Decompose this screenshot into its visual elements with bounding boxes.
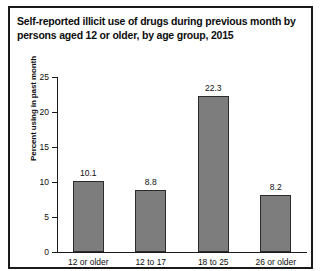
x-tick-label: 26 or older: [240, 258, 312, 267]
y-tick-label: 25: [24, 73, 49, 82]
x-tick-label: 18 to 25: [177, 258, 249, 267]
x-axis-line: [57, 252, 307, 253]
y-tick-mark: [52, 252, 57, 253]
y-tick-label: 10: [24, 178, 49, 187]
bar-value-label: 22.3: [193, 84, 233, 93]
bar: [73, 181, 104, 252]
y-axis-line: [57, 77, 58, 253]
y-tick-label: 15: [24, 143, 49, 152]
figure-frame: Self-reported illicit use of drugs durin…: [8, 6, 313, 269]
bar-value-label: 8.2: [256, 183, 296, 192]
y-tick-mark: [52, 112, 57, 113]
y-tick-mark: [52, 182, 57, 183]
bar: [135, 190, 166, 252]
bar: [260, 195, 291, 252]
y-tick-label: 5: [24, 213, 49, 222]
y-tick-mark: [52, 77, 57, 78]
bar-value-label: 10.1: [68, 169, 108, 178]
bar-value-label: 8.8: [131, 178, 171, 187]
y-tick-mark: [52, 147, 57, 148]
y-tick-label: 0: [24, 248, 49, 257]
y-tick-mark: [52, 217, 57, 218]
bar: [198, 96, 229, 252]
plot-area: Percent using in past month 0510152025 1…: [10, 8, 315, 271]
x-tick-label: 12 or older: [52, 258, 124, 267]
x-tick-label: 12 to 17: [115, 258, 187, 267]
y-tick-label: 20: [24, 108, 49, 117]
